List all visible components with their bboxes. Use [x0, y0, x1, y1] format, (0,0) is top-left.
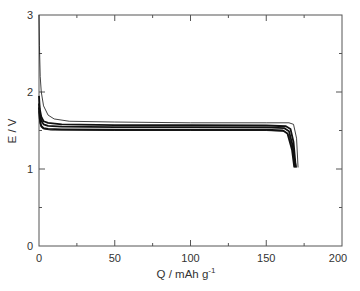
- series-line-cycle-2: [39, 96, 296, 168]
- charge-discharge-chart: 0 1 2 3 0 50 100 150 200 Q / mAh g-1 E /…: [0, 0, 360, 291]
- series-line-cycle-1: [39, 15, 298, 167]
- series-line-cycle-3: [39, 104, 295, 168]
- x-axis-title-main: Q / mAh g: [157, 268, 209, 280]
- series-line-cycle-4: [39, 107, 294, 167]
- x-axis-title: Q / mAh g-1: [157, 266, 216, 280]
- y-axis-title: E / V: [6, 118, 18, 143]
- series-line-cycle-5: [39, 111, 297, 167]
- y-tick-label: 1: [27, 163, 33, 175]
- x-tick-label: 200: [329, 252, 347, 264]
- y-tick-label: 0: [27, 240, 33, 252]
- x-tick-label: 150: [257, 252, 275, 264]
- y-tick-label: 2: [27, 86, 33, 98]
- y-tick-label: 3: [27, 9, 33, 21]
- x-axis-title-superscript: -1: [208, 266, 216, 275]
- x-tick-label: 0: [36, 252, 42, 264]
- data-series: [39, 15, 298, 167]
- x-tick-label: 100: [181, 252, 199, 264]
- x-tick-label: 50: [109, 252, 121, 264]
